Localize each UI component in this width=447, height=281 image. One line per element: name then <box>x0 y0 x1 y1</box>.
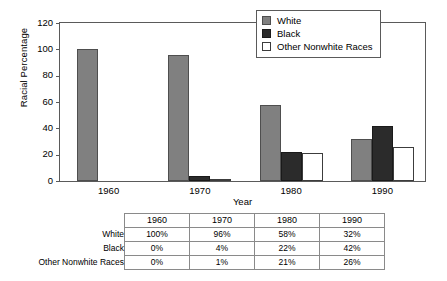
table-corner-cell <box>14 214 125 228</box>
y-axis-label: Racial Percentage <box>18 3 29 133</box>
legend-swatch-white-icon <box>262 16 271 25</box>
table-row: White 100% 96% 58% 32% <box>14 228 385 242</box>
table-header-row: 1960 1970 1980 1990 <box>14 214 385 228</box>
legend-label-other: Other Nonwhite Races <box>277 41 373 52</box>
y-tick-mark-icon <box>56 181 60 182</box>
figure: Racial Percentage 120100806040200 196019… <box>0 0 447 281</box>
table-cell-black-1990: 42% <box>320 242 385 256</box>
bar-group-1970: 1970 <box>151 23 242 181</box>
bar-black-1980 <box>281 152 302 181</box>
bar-other-1990 <box>393 147 414 181</box>
table-cell-other-1990: 26% <box>320 256 385 270</box>
table-rowlabel-other: Other Nonwhite Races <box>14 256 125 270</box>
table-cell-white-1970: 96% <box>190 228 255 242</box>
chart-legend: White Black Other Nonwhite Races <box>256 10 381 58</box>
table-cell-other-1980: 21% <box>255 256 320 270</box>
table-col-1990: 1990 <box>320 214 385 228</box>
legend-swatch-black-icon <box>262 29 271 38</box>
bar-white-1960 <box>77 49 98 181</box>
bar-white-1970 <box>168 55 189 181</box>
bar-white-1980 <box>260 105 281 181</box>
table-cell-white-1990: 32% <box>320 228 385 242</box>
legend-swatch-other-icon <box>262 42 271 51</box>
bar-white-1990 <box>351 139 372 181</box>
table-rowlabel-white: White <box>14 228 125 242</box>
y-tick-label: 120 <box>37 17 53 28</box>
legend-item-white: White <box>262 14 373 27</box>
y-tick-label: 80 <box>42 69 53 80</box>
y-tick-label: 100 <box>37 43 53 54</box>
bar-other-1980 <box>302 153 323 181</box>
table-col-1970: 1970 <box>190 214 255 228</box>
y-tick-label: 40 <box>42 122 53 133</box>
table-col-1960: 1960 <box>125 214 190 228</box>
bar-black-1970 <box>189 176 210 181</box>
bar-chart: Racial Percentage 120100806040200 196019… <box>0 0 447 210</box>
legend-item-black: Black <box>262 27 373 40</box>
table-cell-other-1970: 1% <box>190 256 255 270</box>
x-tick-label-1980: 1980 <box>281 185 302 196</box>
table-cell-black-1980: 22% <box>255 242 320 256</box>
table-rowlabel-black: Black <box>14 242 125 256</box>
bar-group-1960: 1960 <box>60 23 151 181</box>
y-tick-label: 60 <box>42 96 53 107</box>
legend-item-other: Other Nonwhite Races <box>262 40 373 53</box>
x-tick-label-1960: 1960 <box>98 185 119 196</box>
bar-black-1990 <box>372 126 393 181</box>
table-col-1980: 1980 <box>255 214 320 228</box>
bar-other-1970 <box>210 179 231 181</box>
legend-label-black: Black <box>277 28 300 39</box>
x-tick-label-1970: 1970 <box>189 185 210 196</box>
table-cell-black-1960: 0% <box>125 242 190 256</box>
y-tick-label: 0 <box>48 175 53 186</box>
table-cell-white-1980: 58% <box>255 228 320 242</box>
y-tick-label: 20 <box>42 148 53 159</box>
table-cell-black-1970: 4% <box>190 242 255 256</box>
table-row: Black 0% 4% 22% 42% <box>14 242 385 256</box>
data-table: 1960 1970 1980 1990 White 100% 96% 58% 3… <box>14 213 385 270</box>
x-axis-label: Year <box>59 196 426 207</box>
table-row: Other Nonwhite Races 0% 1% 21% 26% <box>14 256 385 270</box>
legend-label-white: White <box>277 15 301 26</box>
table-cell-other-1960: 0% <box>125 256 190 270</box>
x-tick-label-1990: 1990 <box>372 185 393 196</box>
table-cell-white-1960: 100% <box>125 228 190 242</box>
